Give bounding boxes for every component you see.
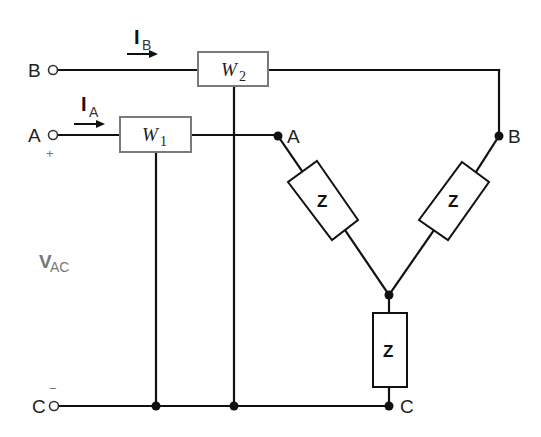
terminal-a-label: A [28,125,41,146]
node-b-dot [495,132,504,141]
voltage-vac: V AC [39,251,69,275]
current-ib: I B [127,26,158,58]
impedance-z-b: Z [419,162,489,240]
z-c-label: Z [383,342,393,361]
w1-junction-dot [152,402,161,411]
plus-sign: + [46,146,54,161]
ib-symbol: I [134,26,140,48]
load-node-a-label: A [287,126,300,147]
wattmeter-w2: W 2 [198,52,268,86]
w1-subscript: 1 [160,134,167,149]
impedance-z-c: Z [373,313,407,387]
minus-sign: − [49,381,57,396]
w1-label: W [142,124,160,145]
terminal-c [50,402,59,411]
load-node-b-label: B [508,126,521,147]
ia-arrowhead-icon [96,120,105,128]
ia-symbol: I [81,93,87,115]
node-c-dot [385,402,394,411]
terminal-b-label: B [28,60,41,81]
terminal-c-label: C [32,396,46,417]
terminal-b [49,66,58,75]
circuit-diagram: W 2 W 1 Z Z Z B A + C − A B C I B [0,0,541,437]
current-ia: I A [74,93,105,128]
w2-label: W [221,59,239,80]
z-a-label: Z [317,192,327,211]
ib-arrowhead-icon [149,50,158,58]
neutral-node-dot [385,291,394,300]
impedance-z-a: Z [288,161,358,240]
wattmeter-w1: W 1 [120,117,191,152]
terminal-a [49,131,58,140]
z-b-label: Z [448,192,458,211]
load-node-c-label: C [400,396,414,417]
ia-subscript: A [89,104,99,120]
node-a-dot [274,132,283,141]
w2-subscript: 2 [239,69,246,84]
vac-subscript: AC [50,259,69,275]
w2-junction-dot [230,402,239,411]
